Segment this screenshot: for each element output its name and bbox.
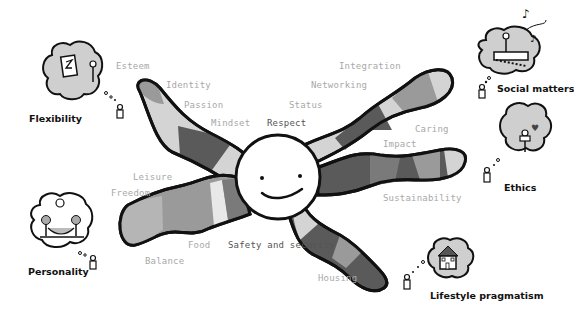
label-networking: Networking <box>311 80 367 90</box>
label-identity: Identity <box>166 80 211 90</box>
category-ethics: Ethics <box>504 182 536 193</box>
mind-map-diagram: ♪ ♪ ♥ <box>0 0 574 315</box>
arm-left <box>120 175 250 245</box>
svg-text:♪: ♪ <box>530 33 536 44</box>
label-leisure: Leisure <box>133 172 172 182</box>
ethics-illustration: ♥ <box>484 103 551 182</box>
label-esteem: Esteem <box>116 61 150 71</box>
label-passion: Passion <box>184 100 223 110</box>
label-balance: Balance <box>145 256 184 266</box>
label-caring: Caring <box>415 124 449 134</box>
label-housing: Housing <box>318 273 357 283</box>
flexibility-illustration <box>43 41 123 118</box>
category-lifestyle-pragmatism: Lifestyle pragmatism <box>430 290 544 301</box>
center-face <box>236 135 320 219</box>
category-flexibility: Flexibility <box>29 113 82 124</box>
svg-text:♪: ♪ <box>522 7 530 21</box>
category-personality: Personality <box>28 266 89 277</box>
label-respect: Respect <box>267 118 306 128</box>
label-food: Food <box>188 240 210 250</box>
label-integration: Integration <box>339 61 401 71</box>
label-sustainability: Sustainability <box>383 193 462 203</box>
label-safety-and-security: Safety and security <box>228 240 335 250</box>
category-social-matters: Social matters <box>497 83 574 94</box>
label-mindset: Mindset <box>211 118 250 128</box>
personality-illustration <box>31 193 96 269</box>
label-impact: Impact <box>383 139 417 149</box>
label-status: Status <box>289 100 323 110</box>
svg-text:♥: ♥ <box>531 123 539 133</box>
lifestyle-pragmatism-illustration <box>404 238 473 289</box>
label-freedom: Freedom <box>111 188 150 198</box>
arm-right <box>316 149 466 195</box>
